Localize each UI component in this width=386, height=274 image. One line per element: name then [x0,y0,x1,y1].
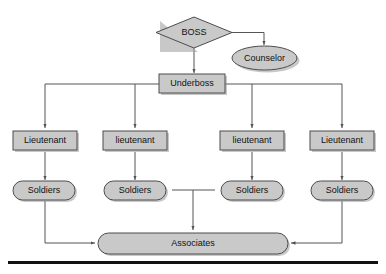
lieutenant-4-rect-shape [310,131,374,150]
counselor-ellipse-shape [232,46,297,70]
soldiers-1-stadium-shape [13,181,75,200]
edge-soldiers-4-associates [291,201,342,243]
org-chart-diagram: BOSS Counselor Underboss Lieutenant lieu… [0,0,386,274]
diagram-canvas: BOSS Counselor Underboss Lieutenant lieu… [0,0,386,274]
node-lieutenant-4[interactable]: Lieutenant [310,131,376,152]
node-lieutenant-2[interactable]: lieutenant [103,131,169,152]
soldiers-2-stadium-shape [104,181,166,200]
edge-boss-counselor [232,33,264,46]
lieutenant-1-rect-shape [13,131,77,150]
node-lieutenant-1[interactable]: Lieutenant [13,131,79,152]
soldiers-3-stadium-shape [221,181,283,200]
node-soldiers-4[interactable]: Soldiers [311,181,375,202]
associates-stadium-shape [98,233,288,254]
node-soldiers-3[interactable]: Soldiers [221,181,285,202]
node-counselor[interactable]: Counselor [232,46,300,73]
underboss-rect-shape [159,74,225,93]
node-underboss[interactable]: Underboss [159,74,227,95]
node-soldiers-2[interactable]: Soldiers [104,181,168,202]
soldiers-4-stadium-shape [311,181,373,200]
edge-soldiers-1-associates [45,201,95,243]
bottom-divider-rule [8,261,378,264]
node-associates[interactable]: Associates [98,233,290,256]
node-boss[interactable]: BOSS [156,17,232,52]
node-lieutenant-3[interactable]: lieutenant [220,131,286,152]
node-soldiers-1[interactable]: Soldiers [13,181,77,202]
lieutenant-2-rect-shape [103,131,167,150]
lieutenant-3-rect-shape [220,131,284,150]
